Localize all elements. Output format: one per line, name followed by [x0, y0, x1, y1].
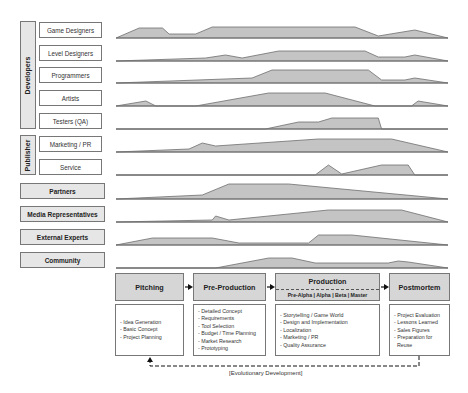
phase-pre-production: Pre-Production [193, 273, 266, 301]
detail-item: - Quality Assurance [280, 342, 375, 349]
area-game-designers [116, 27, 448, 38]
postmortem-details: - Project Evaluation- Lessons Learned- S… [389, 304, 450, 356]
detail-item: - Budget / Time Planning [198, 330, 261, 337]
area-programmers [116, 70, 448, 83]
pitching-detail-list: - Idea Generation- Basic Concept- Projec… [120, 319, 179, 341]
arrow-up-icon [147, 357, 153, 362]
pre-production-detail-list: - Detailed Concept- Requirements- Tool S… [198, 308, 261, 352]
area-level-designers [116, 51, 448, 61]
area-marketing-pr [116, 139, 448, 152]
detail-item: - Localization [280, 327, 375, 334]
detail-item: - Prototyping [198, 345, 261, 352]
detail-item: - Basic Concept [120, 326, 179, 333]
detail-item: - Design and Implementation [280, 319, 375, 326]
phase-production-milestones: Pre-Alpha | Alpha | Beta | Master [276, 292, 379, 298]
detail-item: - Market Research [198, 338, 261, 345]
phase-pitching: Pitching [115, 273, 184, 301]
detail-item: Reuse [394, 342, 445, 349]
detail-item: - Marketing / PR [280, 334, 375, 341]
phase-production-divider [276, 289, 379, 290]
area-testers-qa- [116, 118, 448, 129]
detail-item: - Project Planning [120, 334, 179, 341]
postmortem-detail-list: - Project Evaluation- Lessons Learned- S… [394, 312, 445, 349]
area-service [116, 165, 448, 175]
detail-item: - Tool Selection [198, 323, 261, 330]
detail-item: - Preparation for [394, 334, 445, 341]
detail-item: - Project Evaluation [394, 312, 445, 319]
pitching-details: - Idea Generation- Basic Concept- Projec… [115, 304, 184, 356]
detail-item: - Detailed Concept [198, 308, 261, 315]
evolutionary-loop-line [150, 356, 419, 366]
area-partners [116, 184, 448, 199]
pre-production-details: - Detailed Concept- Requirements- Tool S… [193, 304, 266, 356]
detail-item: - Sales Figures [394, 327, 445, 334]
area-external-experts [116, 235, 448, 245]
production-detail-list: - Storytelling / Game World- Design and … [280, 312, 375, 349]
production-details: - Storytelling / Game World- Design and … [275, 304, 380, 356]
area-artists [116, 93, 448, 106]
detail-item: - Requirements [198, 315, 261, 322]
evolutionary-development-label: [Evolutionary Development] [229, 370, 302, 376]
phase-production-label: Production [276, 277, 379, 286]
detail-item: - Lessons Learned [394, 319, 445, 326]
phase-production: Production Pre-Alpha | Alpha | Beta | Ma… [275, 273, 380, 301]
detail-item: - Idea Generation [120, 319, 179, 326]
area-community [116, 258, 448, 268]
detail-item: - Storytelling / Game World [280, 312, 375, 319]
area-media-representatives [116, 210, 448, 222]
phase-postmortem: Postmortem [389, 273, 450, 301]
